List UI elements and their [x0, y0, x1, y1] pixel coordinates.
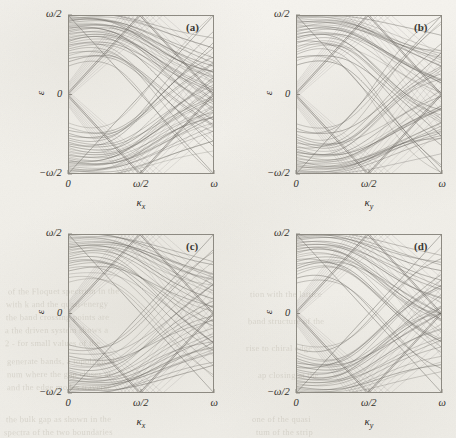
panel-c-ytick-label: 0	[57, 307, 62, 318]
panel-d-xtick-label: ω/2	[361, 397, 377, 408]
panel-c-xtick-label: ω	[211, 397, 218, 408]
panel-a-ytick-label: 0	[57, 88, 62, 99]
panel-d	[296, 234, 442, 393]
panel-a	[68, 15, 214, 174]
panel-a-xtick-label: ω/2	[133, 178, 149, 189]
panel-a-xtick-label: 0	[66, 178, 71, 189]
panel-c-xlabel-subscript: x	[142, 421, 146, 430]
panel-d-ytick-label: ω/2	[274, 227, 290, 238]
panel-c	[68, 234, 214, 393]
panel-d-curves	[296, 234, 442, 393]
panel-d-xtick-label: ω	[439, 397, 446, 408]
panel-d-xtick-label: 0	[294, 397, 299, 408]
panel-b-xlabel: κy	[365, 196, 374, 211]
panel-c-xtick-label: 0	[66, 397, 71, 408]
panel-d-xlabel: κy	[365, 415, 374, 430]
panel-c-curves	[68, 234, 214, 393]
panel-a-xtick-label: ω	[211, 178, 218, 189]
panel-c-label: (c)	[186, 240, 198, 252]
panel-d-ytick-label: 0	[285, 307, 290, 318]
panel-d-label: (d)	[414, 240, 427, 252]
panel-b-xlabel-subscript: y	[370, 202, 374, 211]
panel-b-label: (b)	[414, 21, 427, 33]
panel-b-ytick-label: −ω/2	[267, 167, 290, 178]
panel-b	[296, 15, 442, 174]
panel-b-xtick-label: ω/2	[361, 178, 377, 189]
panel-b-xtick-label: 0	[294, 178, 299, 189]
panel-b-ytick-label: 0	[285, 88, 290, 99]
panel-c-xlabel: κx	[137, 415, 146, 430]
panel-a-xlabel-subscript: x	[142, 202, 146, 211]
panel-b-xtick-label: ω	[439, 178, 446, 189]
panel-c-ytick-label: ω/2	[46, 227, 62, 238]
panel-a-ylabel: ε	[34, 83, 46, 103]
panel-d-ylabel: ε	[262, 302, 274, 322]
panel-d-xlabel-subscript: y	[370, 421, 374, 430]
figure-panels	[0, 0, 456, 438]
panel-c-xtick-label: ω/2	[133, 397, 149, 408]
panel-a-ytick-label: ω/2	[46, 8, 62, 19]
panel-a-ytick-label: −ω/2	[39, 167, 62, 178]
panel-c-ylabel: ε	[34, 302, 46, 322]
panel-a-label: (a)	[186, 21, 199, 33]
panel-b-ytick-label: ω/2	[274, 8, 290, 19]
panel-c-ytick-label: −ω/2	[39, 386, 62, 397]
panel-d-ytick-label: −ω/2	[267, 386, 290, 397]
panel-a-xlabel: κx	[137, 196, 146, 211]
panel-b-ylabel: ε	[262, 83, 274, 103]
panel-b-curves	[296, 15, 442, 174]
panel-a-curves	[68, 15, 214, 174]
